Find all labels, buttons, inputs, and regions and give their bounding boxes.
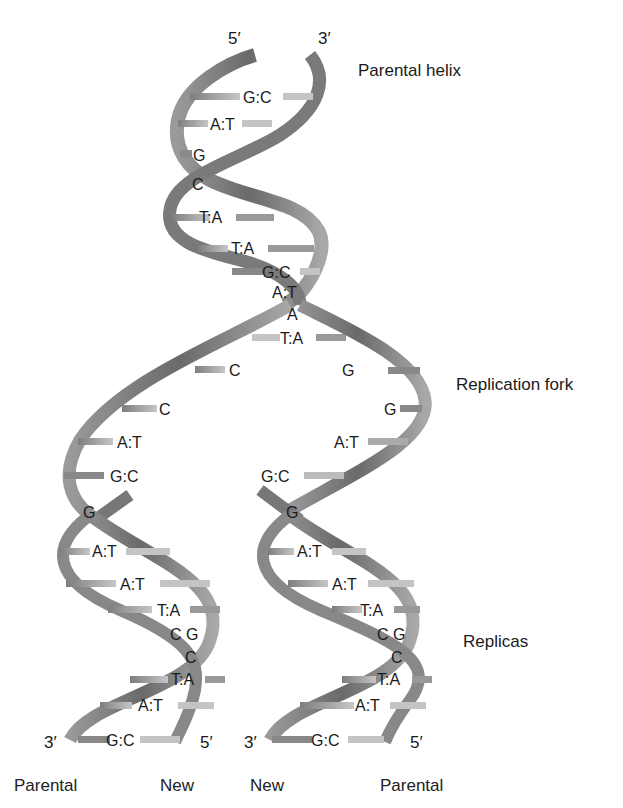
- top-5-prime-label: 5′: [228, 29, 241, 48]
- base-label: A:T: [117, 434, 142, 451]
- replica-right: [263, 515, 432, 743]
- base-label: C G: [170, 626, 198, 643]
- base-label: T:A: [199, 209, 222, 226]
- base-label: C: [391, 649, 403, 666]
- base-label: T:A: [280, 330, 303, 347]
- base-label: T:A: [360, 602, 383, 619]
- base-label: T:A: [171, 671, 194, 688]
- base-label: G:C: [106, 732, 134, 749]
- base-label: A:T: [272, 284, 297, 301]
- base-label: G:C: [311, 732, 339, 749]
- base-label: C: [192, 176, 204, 193]
- base-label: G:C: [262, 264, 290, 281]
- base-label: C: [185, 649, 197, 666]
- base-label: A:T: [334, 434, 359, 451]
- base-label: A:T: [120, 576, 145, 593]
- base-label: A:T: [297, 543, 322, 560]
- base-label: G: [83, 504, 95, 521]
- right-5-prime-label: 5′: [410, 733, 423, 752]
- base-label: G:C: [110, 468, 138, 485]
- base-label: C G: [377, 626, 405, 643]
- base-label: G: [384, 401, 396, 418]
- base-label: A:T: [355, 697, 380, 714]
- dna-replication-diagram: G:C A:T G C T:A T:A G:C A:T A T:A C C A:…: [0, 0, 623, 808]
- footer-label-new-left: New: [160, 776, 194, 796]
- right-3-prime-label: 3′: [244, 733, 257, 752]
- footer-label-parental-left: Parental: [14, 776, 77, 796]
- left-5-prime-label: 5′: [200, 733, 213, 752]
- footer-label-parental-right: Parental: [380, 776, 443, 796]
- base-label: G: [342, 362, 354, 379]
- top-3-prime-label: 3′: [318, 29, 331, 48]
- left-3-prime-label: 3′: [44, 733, 57, 752]
- base-label: A:T: [138, 697, 163, 714]
- replication-fork: [64, 305, 425, 520]
- base-label: A:T: [332, 576, 357, 593]
- base-label: T:A: [377, 671, 400, 688]
- parental-helix-label: Parental helix: [358, 61, 462, 80]
- replicas-label: Replicas: [463, 632, 528, 651]
- footer-label-new-right: New: [250, 776, 284, 796]
- base-label: A:T: [210, 116, 235, 133]
- base-label: C: [159, 401, 171, 418]
- base-label: G: [193, 147, 205, 164]
- base-label: G: [286, 504, 298, 521]
- base-label: C: [229, 362, 241, 379]
- base-label: A:T: [92, 543, 117, 560]
- base-label: G:C: [243, 89, 271, 106]
- base-label: A: [287, 306, 298, 323]
- base-label: T:A: [231, 240, 254, 257]
- replication-fork-label: Replication fork: [456, 375, 574, 394]
- base-label: G:C: [261, 468, 289, 485]
- base-label: T:A: [157, 602, 180, 619]
